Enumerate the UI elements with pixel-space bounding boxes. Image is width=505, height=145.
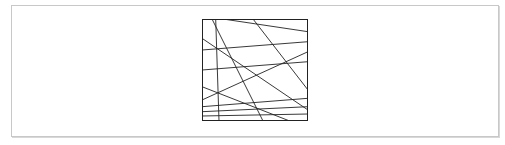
line-arrangement-figure xyxy=(202,19,308,121)
line-segment xyxy=(202,114,308,116)
line-segment xyxy=(202,42,308,50)
line-arrangement-svg xyxy=(202,19,308,121)
line-segment xyxy=(223,19,308,32)
line-segment xyxy=(253,19,308,90)
